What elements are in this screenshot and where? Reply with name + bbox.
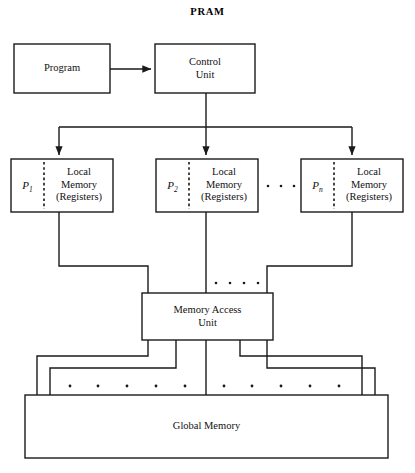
processor-symbol-n: P — [312, 179, 319, 191]
wire-mau-to-gm-outer-right — [267, 340, 375, 395]
gm-ellipsis-dot — [223, 385, 226, 388]
gm-ellipsis-dot — [126, 385, 129, 388]
local-memory-label-1: Local Memory (Registers) — [45, 166, 113, 204]
gm-ellipsis-dot — [155, 385, 158, 388]
processor-ellipsis-dot — [293, 185, 296, 188]
processor-symbol-2: P — [167, 179, 174, 191]
mau-ellipsis-dot — [243, 282, 246, 285]
pram-architecture-diagram: PRAM — [0, 0, 415, 473]
gm-ellipsis-dot — [251, 385, 254, 388]
gm-ellipsis-dot — [69, 385, 72, 388]
gm-ellipsis-dot — [184, 385, 187, 388]
wire-pn-to-mau — [267, 212, 352, 293]
processor-ellipsis-dot — [280, 185, 283, 188]
mau-ellipsis-dot — [229, 282, 232, 285]
global-memory-label: Global Memory — [25, 420, 388, 433]
program-label: Program — [14, 62, 110, 75]
mau-ellipsis-dot — [257, 282, 260, 285]
control-unit-label: Control Unit — [155, 56, 255, 81]
gm-ellipsis-dot — [97, 385, 100, 388]
processor-index-n: n — [319, 185, 323, 194]
processor-label-2: P2 — [156, 179, 189, 197]
processor-label-1: P1 — [11, 179, 44, 197]
local-memory-label-n: Local Memory (Registers) — [335, 166, 403, 204]
wire-p1-to-mau — [59, 212, 148, 293]
processor-index-2: 2 — [174, 185, 178, 194]
gm-ellipsis-dot — [280, 385, 283, 388]
local-memory-label-2: Local Memory (Registers) — [190, 166, 258, 204]
gm-ellipsis-dot — [309, 385, 312, 388]
processor-symbol-1: P — [22, 179, 29, 191]
mau-ellipsis-dot — [215, 282, 218, 285]
memory-access-unit-label: Memory Access Unit — [142, 304, 273, 329]
gm-ellipsis-dot — [338, 385, 341, 388]
processor-index-1: 1 — [29, 185, 33, 194]
processor-ellipsis-dot — [267, 185, 270, 188]
processor-label-n: Pn — [301, 179, 334, 197]
